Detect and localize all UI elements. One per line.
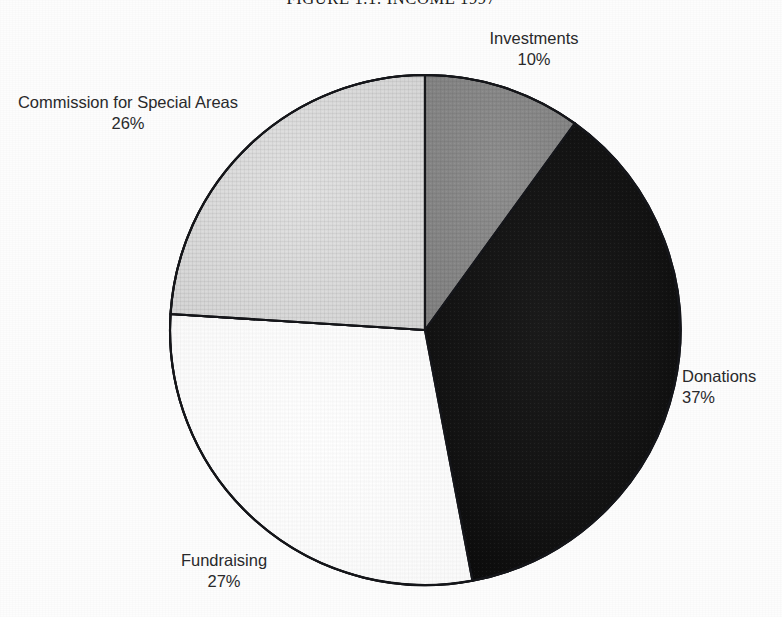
pie-label-donations-value: 37%	[682, 387, 782, 408]
pie-label-investments-value: 10%	[470, 49, 598, 70]
figure-page: FIGURE 1.1: INCOME 1997	[0, 0, 782, 617]
pie-label-commission: Commission for Special Areas 26%	[2, 92, 254, 134]
slice-texture-fundraising	[170, 314, 472, 585]
pie-slice-fundraising[interactable]	[170, 314, 472, 585]
pie-label-fundraising: Fundraising 27%	[148, 550, 300, 592]
pie-label-donations: Donations 37%	[682, 366, 782, 408]
pie-label-fundraising-value: 27%	[148, 571, 300, 592]
pie-label-investments: Investments 10%	[470, 28, 598, 70]
pie-label-investments-name: Investments	[470, 28, 598, 49]
pie-label-commission-value: 26%	[2, 113, 254, 134]
pie-label-donations-name: Donations	[682, 366, 782, 387]
pie-label-fundraising-name: Fundraising	[148, 550, 300, 571]
pie-label-commission-name: Commission for Special Areas	[2, 92, 254, 113]
pie-chart	[164, 69, 686, 591]
figure-caption: FIGURE 1.1: INCOME 1997	[0, 0, 782, 9]
